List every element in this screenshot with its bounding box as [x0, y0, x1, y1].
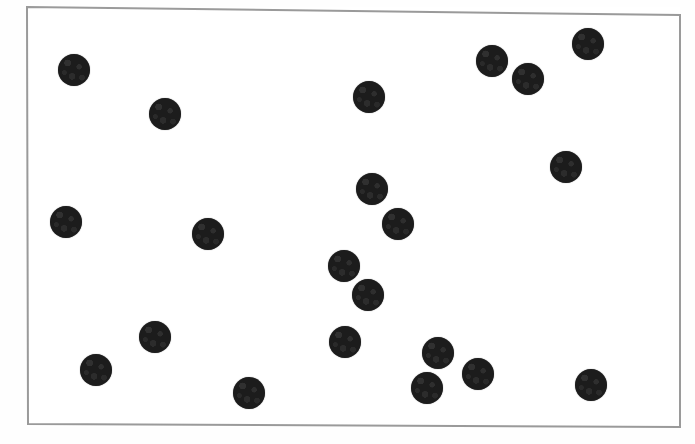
circle-marker — [550, 151, 582, 183]
circle-marker — [80, 354, 112, 386]
circle-marker — [382, 208, 414, 240]
circle-marker — [572, 28, 604, 60]
circle-marker — [462, 358, 494, 390]
circle-marker — [50, 206, 82, 238]
scanned-figure — [0, 0, 695, 444]
circle-marker — [58, 54, 90, 86]
circle-marker — [328, 250, 360, 282]
circle-marker — [233, 377, 265, 409]
circle-marker — [411, 372, 443, 404]
circle-marker — [192, 218, 224, 250]
circle-marker — [353, 81, 385, 113]
circle-marker — [352, 279, 384, 311]
circle-marker — [149, 98, 181, 130]
paper-sheet — [27, 7, 680, 427]
circle-marker — [512, 63, 544, 95]
circle-marker — [422, 337, 454, 369]
circle-marker — [329, 326, 361, 358]
circle-marker — [356, 173, 388, 205]
circle-marker — [476, 45, 508, 77]
circle-marker — [575, 369, 607, 401]
circle-marker — [139, 321, 171, 353]
